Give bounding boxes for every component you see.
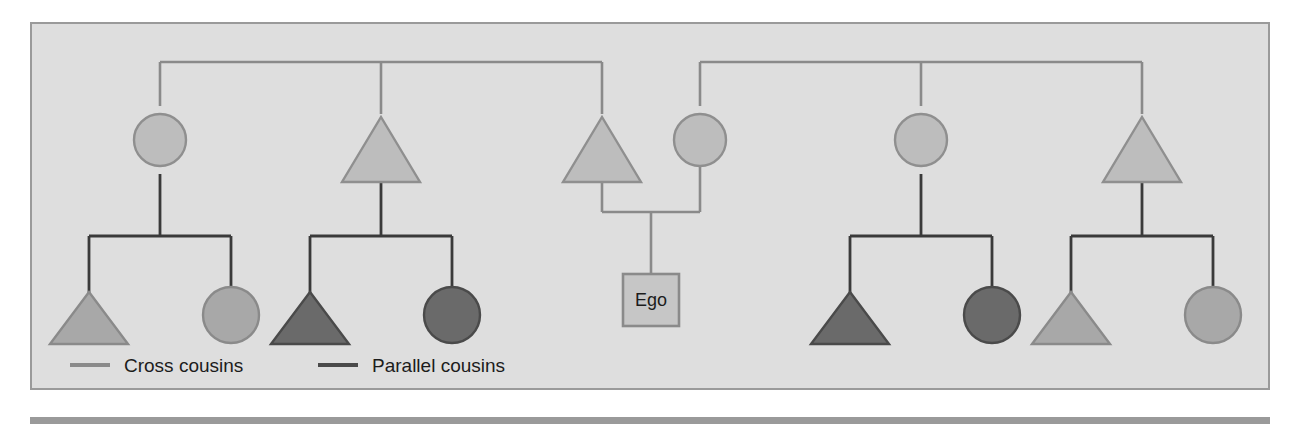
upper-sibling-links: [160, 62, 1142, 114]
cousin-shape-c5: [811, 292, 889, 344]
bottom-horizontal-rule: [30, 417, 1270, 424]
cousin-shape-c2: [203, 287, 259, 343]
kinship-diagram-svg: Ego Cross cousins Parallel cousins: [32, 24, 1268, 388]
cousin-shape-c6: [964, 287, 1020, 343]
cousin-shape-c1: [50, 292, 128, 344]
legend-label-parallel: Parallel cousins: [372, 355, 505, 376]
cousin-shape-c7: [1032, 292, 1110, 344]
parent-shape-p4: [674, 114, 726, 166]
parent-shape-p5: [895, 114, 947, 166]
cousin-shape-c8: [1185, 287, 1241, 343]
parent-shape-p3: [563, 117, 641, 182]
parent-generation: [134, 114, 1181, 182]
kinship-figure: Ego Cross cousins Parallel cousins: [0, 0, 1299, 439]
ego-node: Ego: [623, 274, 679, 326]
diagram-panel: Ego Cross cousins Parallel cousins: [30, 22, 1270, 390]
legend: Cross cousins Parallel cousins: [70, 355, 505, 376]
parent-shape-p6: [1103, 117, 1181, 182]
cousin-shape-c3: [271, 292, 349, 344]
cousin-shape-c4: [424, 287, 480, 343]
legend-label-cross: Cross cousins: [124, 355, 243, 376]
legend-item-parallel: Parallel cousins: [318, 355, 505, 376]
parent-shape-p2: [342, 117, 420, 182]
ego-label: Ego: [635, 290, 667, 310]
parent-shape-p1: [134, 114, 186, 166]
legend-item-cross: Cross cousins: [70, 355, 243, 376]
